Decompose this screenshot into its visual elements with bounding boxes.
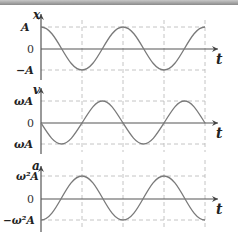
tick-top-label: ωA — [14, 95, 33, 108]
tick-zero-label: 0 — [27, 193, 34, 206]
tick-zero-label: 0 — [27, 117, 34, 130]
tick-zero-label: 0 — [27, 43, 34, 56]
velocity-graph: v ωA 0 ωA t — [14, 80, 223, 154]
tick-bottom-label: ωA — [14, 138, 33, 151]
t-axis-label: t — [216, 51, 223, 67]
tick-bottom-label: −ω²A — [3, 214, 35, 226]
y-axis-label: x — [32, 8, 41, 22]
tick-bottom-label: −A — [16, 64, 34, 77]
acceleration-graph: a ω²A 0 −ω²A t — [3, 159, 223, 232]
grid-lines — [41, 160, 205, 228]
tick-top-label: ω²A — [16, 170, 39, 182]
t-axis-label: t — [216, 125, 223, 141]
tick-top-label: A — [20, 21, 30, 34]
grid-lines — [41, 80, 205, 152]
displacement-graph: x A 0 −A t — [16, 8, 223, 80]
shm-diagram: x A 0 −A t v ωA 0 ωA t — [0, 0, 238, 240]
y-axis-label: v — [33, 83, 41, 97]
t-axis-label: t — [216, 201, 223, 217]
